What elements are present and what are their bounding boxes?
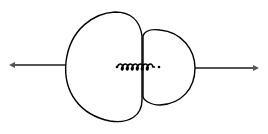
- spring-bodies-diagram: [0, 0, 268, 134]
- small-body: [143, 30, 195, 105]
- large-body: [66, 12, 142, 122]
